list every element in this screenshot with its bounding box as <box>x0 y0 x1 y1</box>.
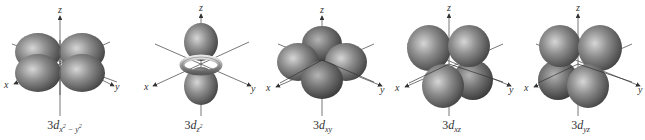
z-axis-label: z <box>575 2 580 13</box>
y-axis-label: y <box>250 83 256 94</box>
d-orbitals-figure: z x y 3dx2 − y2 z x y 3dz2 <box>0 0 645 140</box>
z-axis-label: z <box>446 2 451 13</box>
x-axis-label: x <box>265 82 271 93</box>
x-axis-label: x <box>143 81 149 92</box>
orbital-label-dxz: 3dxz <box>387 118 516 134</box>
orbital-panel-dyz: z x y 3dyz <box>516 0 645 140</box>
orbital-panel-dxy: z x y 3dxy <box>258 0 387 140</box>
y-axis-label: y <box>508 84 514 95</box>
x-axis-label: x <box>3 79 9 90</box>
orbital-panel-dx2-y2: z x y 3dx2 − y2 <box>0 0 129 140</box>
orbital-panel-dxz: z x y 3dxz <box>387 0 516 140</box>
x-axis-label: x <box>523 82 529 93</box>
orbital-label-dyz: 3dyz <box>516 118 645 134</box>
y-axis-label: y <box>637 84 643 95</box>
lobes <box>538 25 622 108</box>
orbital-label-dx2-y2: 3dx2 − y2 <box>0 118 129 134</box>
z-axis-label: z <box>57 4 62 15</box>
orbital-label-dz2: 3dz2 <box>129 118 258 134</box>
x-axis-label: x <box>394 82 400 93</box>
lobes <box>277 26 367 99</box>
z-axis-label: z <box>198 2 203 13</box>
z-axis-label: z <box>319 4 324 15</box>
y-axis-label: y <box>379 84 385 95</box>
orbital-panel-dz2: z x y 3dz2 <box>129 0 258 140</box>
orbital-label-dxy: 3dxy <box>258 118 387 134</box>
y-axis-label: y <box>114 81 120 92</box>
lobes <box>407 25 493 108</box>
